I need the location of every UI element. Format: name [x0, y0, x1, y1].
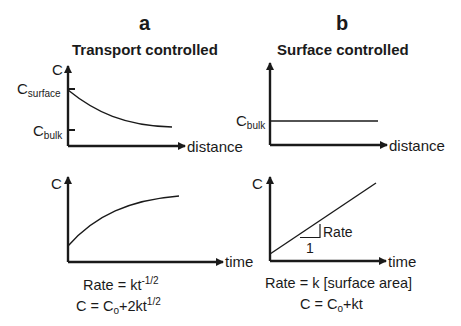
b-bottom-x-label: time — [388, 254, 416, 269]
plot-a-top — [68, 66, 185, 146]
a-bottom-x-label: time — [225, 254, 253, 269]
a-top-y-label: C — [52, 62, 63, 77]
b-top-x-label: distance — [389, 138, 445, 153]
b-equation-c: C = Co+kt — [300, 297, 363, 314]
sqrt-curve — [68, 196, 179, 246]
a-equation-rate: Rate = kt-1/2 — [83, 276, 159, 293]
plot-a-bottom — [68, 177, 223, 262]
a-equation-c: C = Co+2kt1/2 — [76, 297, 161, 316]
b-bottom-y-label: C — [252, 176, 263, 191]
slope-triangle — [300, 224, 320, 238]
a-bottom-y-label: C — [51, 176, 62, 191]
a-tick-surface-label: Csurface — [17, 81, 61, 99]
a-top-x-label: distance — [187, 139, 243, 154]
eq-mid: +kt — [343, 296, 363, 312]
label-base: C — [33, 122, 44, 139]
a-tick-bulk-label: Cbulk — [33, 123, 62, 141]
label-sub: bulk — [44, 130, 62, 141]
plot-b-bottom — [270, 177, 386, 261]
linear-line — [270, 183, 376, 254]
eq-text: Rate = kt — [83, 277, 141, 293]
plot-b-top — [270, 63, 387, 145]
eq-mid: +2kt — [119, 298, 147, 314]
eq-sup: 1/2 — [147, 296, 161, 307]
eq-pre: C = C — [300, 296, 337, 312]
label-sub: surface — [28, 88, 61, 99]
decay-curve — [68, 90, 172, 127]
eq-sup: -1/2 — [141, 275, 158, 286]
b-run-label: 1 — [306, 241, 314, 255]
label-base: C — [17, 80, 28, 97]
eq-pre: C = C — [76, 298, 113, 314]
b-equation-rate: Rate = k [surface area] — [265, 276, 412, 291]
label-base: C — [236, 112, 247, 129]
label-sub: bulk — [247, 120, 265, 131]
b-tick-bulk-label: Cbulk — [236, 113, 265, 131]
b-slope-label: Rate — [323, 225, 353, 239]
